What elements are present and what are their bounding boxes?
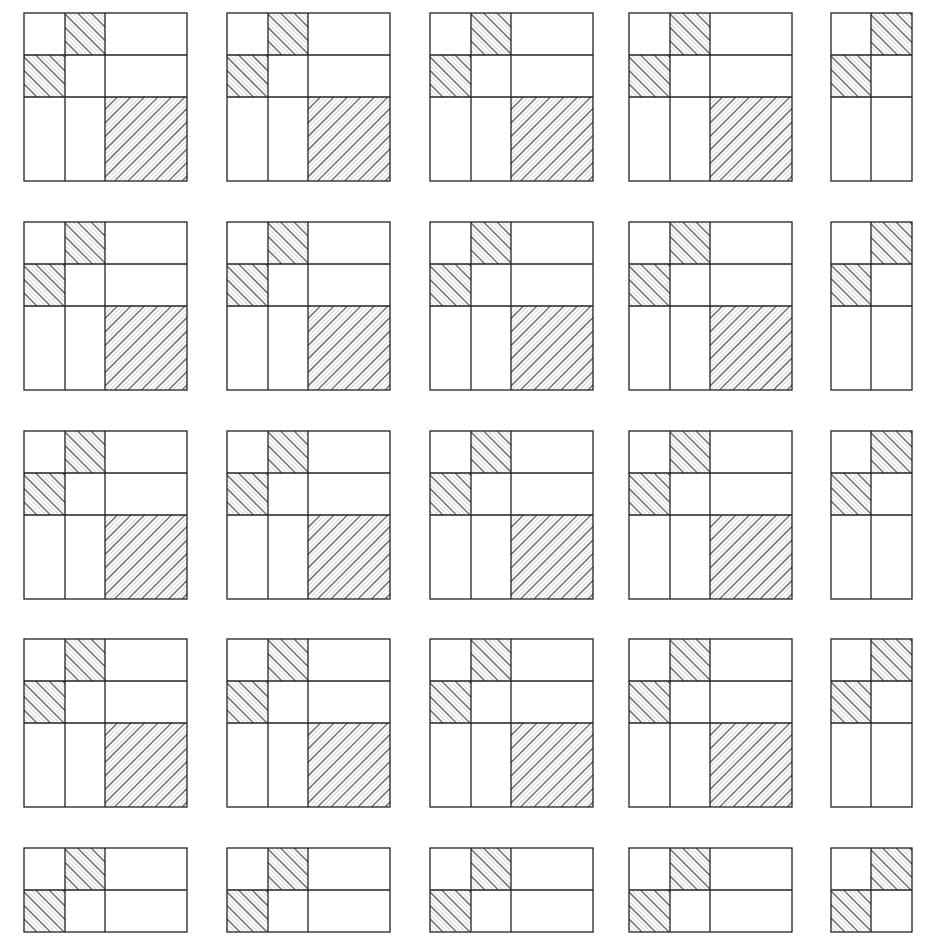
hatch-fill bbox=[0, 222, 187, 264]
tile-r3-c3 bbox=[429, 430, 594, 600]
tile-r3-c2 bbox=[226, 430, 391, 600]
tile-r5-c1 bbox=[23, 847, 188, 933]
hatch-fill bbox=[389, 13, 593, 55]
tile-r2-c1 bbox=[23, 221, 188, 391]
hatch-fill bbox=[389, 848, 593, 890]
hatch-fill bbox=[0, 431, 187, 473]
tile-r5-c2 bbox=[226, 847, 391, 933]
tile-r1-c2 bbox=[226, 12, 391, 182]
block-grid-lines bbox=[831, 13, 912, 181]
tile-r1-c5 bbox=[830, 12, 913, 182]
hatch-fill bbox=[788, 431, 933, 473]
hatch-fill bbox=[0, 55, 145, 97]
tile-r5-c5 bbox=[830, 847, 913, 933]
hatch-fill bbox=[186, 848, 390, 890]
block-grid-lines bbox=[430, 848, 593, 932]
tile-r3-c4 bbox=[628, 430, 793, 600]
hatch-fill bbox=[0, 848, 187, 890]
hatch-fill bbox=[389, 222, 593, 264]
tile-r4-c3 bbox=[429, 638, 594, 808]
block-grid-lines bbox=[831, 639, 912, 807]
hatch-fill bbox=[588, 431, 792, 473]
tile-r2-c2 bbox=[226, 221, 391, 391]
tile-r1-c3 bbox=[429, 12, 594, 182]
tile-r4-c1 bbox=[23, 638, 188, 808]
block-grid-lines bbox=[831, 431, 912, 599]
hatch-fill bbox=[0, 890, 145, 932]
hatch-fill bbox=[389, 431, 593, 473]
tile-r2-c3 bbox=[429, 221, 594, 391]
hatch-fill bbox=[186, 222, 390, 264]
hatch-fill bbox=[0, 264, 145, 306]
hatch-fill bbox=[186, 639, 390, 681]
tile-r2-c4 bbox=[628, 221, 793, 391]
hatch-fill bbox=[389, 639, 593, 681]
tile-r1-c1 bbox=[23, 12, 188, 182]
hatch-fill bbox=[0, 473, 145, 515]
tile-r5-c3 bbox=[429, 847, 594, 933]
hatch-fill bbox=[0, 639, 187, 681]
hatch-fill bbox=[788, 639, 933, 681]
hatch-fill bbox=[186, 431, 390, 473]
hatch-fill bbox=[588, 848, 792, 890]
tile-r1-c4 bbox=[628, 12, 793, 182]
tile-r4-c2 bbox=[226, 638, 391, 808]
hatch-fill bbox=[588, 639, 792, 681]
tile-r4-c4 bbox=[628, 638, 793, 808]
tile-r3-c1 bbox=[23, 430, 188, 600]
hatch-fill bbox=[588, 13, 792, 55]
block-grid-lines bbox=[831, 222, 912, 390]
hatch-fill bbox=[0, 681, 145, 723]
tile-r3-c5 bbox=[830, 430, 913, 600]
hatch-fill bbox=[788, 848, 933, 890]
block-grid-lines bbox=[227, 848, 390, 932]
hatch-fill bbox=[788, 222, 933, 264]
tiling-diagram bbox=[0, 0, 933, 948]
hatch-fill bbox=[588, 222, 792, 264]
tile-r2-c5 bbox=[830, 221, 913, 391]
tile-r5-c4 bbox=[628, 847, 793, 933]
hatch-fill bbox=[186, 13, 390, 55]
block-grid-lines bbox=[629, 848, 792, 932]
hatch-fill bbox=[0, 13, 187, 55]
tile-r4-c5 bbox=[830, 638, 913, 808]
block-grid-lines bbox=[24, 848, 187, 932]
hatch-fill bbox=[788, 13, 933, 55]
